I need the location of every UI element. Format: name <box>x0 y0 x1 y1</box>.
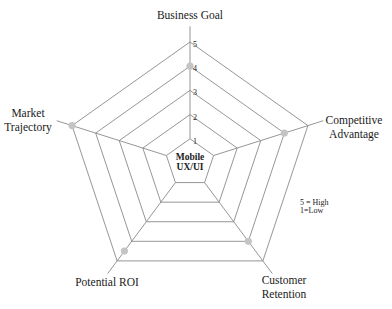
center-label-line-2: UX/UI <box>177 162 204 172</box>
data-point-market-trajectory <box>68 122 75 129</box>
axis-line-2 <box>214 121 324 156</box>
data-point-business-goal <box>186 63 193 70</box>
data-point-competitive-advantage <box>281 129 288 136</box>
axis-line-3 <box>205 183 273 274</box>
tick-labels: 12345 <box>193 40 197 146</box>
axis-label-competitive-advantage-line-1: Competitive <box>326 114 383 127</box>
axis-label-competitive-advantage-line-2: Advantage <box>329 128 379 141</box>
axis-label-potential-roi: Potential ROI <box>75 276 139 288</box>
legend-low: 1=Low <box>300 206 323 215</box>
axis-label-customer-retention-line-2: Retention <box>262 288 307 300</box>
axis-label-business-goal: Business Goal <box>157 9 223 21</box>
legend: 5 = High 1=Low <box>300 198 329 215</box>
data-point-potential-roi <box>121 248 128 255</box>
tick-label-1: 1 <box>193 137 197 146</box>
tick-label-2: 2 <box>193 113 197 122</box>
axis-line-4 <box>108 183 176 274</box>
axis-label-customer-retention-line-1: Customer <box>262 274 307 286</box>
axis-label-market-trajectory-line-2: Trajectory <box>4 121 52 134</box>
axis-label-market-trajectory-line-1: Market <box>11 107 45 119</box>
tick-label-5: 5 <box>193 40 197 49</box>
center-label-line-1: Mobile <box>176 152 205 162</box>
tick-label-3: 3 <box>193 88 197 97</box>
data-point-customer-retention <box>245 238 252 245</box>
tick-label-4: 4 <box>193 64 197 73</box>
radar-chart: 12345 Business GoalCompetitiveAdvantageC… <box>0 0 392 309</box>
